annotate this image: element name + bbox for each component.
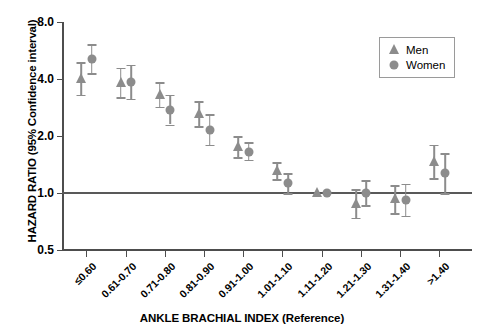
triangle-marker-icon: [155, 89, 165, 99]
y-tick-mark: [57, 79, 62, 80]
legend-label-women: Women: [406, 59, 445, 71]
hazard-ratio-chart: HAZARD RATIO (95% Confidence interval) A…: [0, 0, 484, 335]
ci-cap: [87, 44, 96, 46]
ci-cap: [283, 193, 292, 195]
x-tick-label: 0.61-0.70: [98, 260, 138, 300]
ci-cap: [440, 153, 449, 155]
ci-cap: [166, 95, 175, 97]
ci-cap: [116, 68, 125, 70]
triangle-marker-icon: [272, 165, 282, 175]
y-tick-label: 0.5: [37, 243, 54, 257]
x-tick-mark: [322, 251, 323, 257]
x-tick-mark: [439, 251, 440, 257]
ci-cap: [283, 173, 292, 175]
circle-marker-icon: [205, 126, 214, 135]
ci-cap: [155, 82, 164, 84]
triangle-marker-icon: [429, 156, 439, 166]
ci-cap: [430, 178, 439, 180]
x-tick-mark: [243, 251, 244, 257]
ci-cap: [244, 160, 253, 162]
ci-cap: [205, 114, 214, 116]
ci-cap: [155, 107, 164, 109]
circle-marker-icon: [283, 178, 292, 187]
ci-cap: [362, 205, 371, 207]
ci-cap: [127, 99, 136, 101]
chart-legend: Men Women: [379, 37, 455, 78]
legend-item-men: Men: [387, 42, 445, 57]
x-tick-label: 1.31-1.40: [373, 260, 413, 300]
triangle-marker-icon: [233, 141, 243, 151]
ci-cap: [234, 157, 243, 159]
ci-cap: [87, 73, 96, 75]
x-tick-mark: [165, 251, 166, 257]
x-tick-label: 0.81-0.90: [177, 260, 217, 300]
ci-cap: [77, 95, 86, 97]
y-tick-mark: [57, 250, 62, 251]
y-tick-mark: [57, 22, 62, 23]
ci-cap: [351, 189, 360, 191]
legend-label-men: Men: [406, 44, 428, 56]
x-tick-label: >1.40: [425, 260, 452, 287]
x-tick-mark: [282, 251, 283, 257]
circle-marker-icon: [323, 189, 332, 198]
ci-cap: [195, 126, 204, 128]
ci-cap: [440, 193, 449, 195]
ci-cap: [362, 180, 371, 182]
triangle-marker-icon: [116, 77, 126, 87]
ci-cap: [116, 97, 125, 99]
ci-cap: [391, 213, 400, 215]
reference-line: [62, 192, 472, 194]
ci-cap: [127, 65, 136, 67]
triangle-marker-icon: [76, 73, 86, 83]
x-tick-mark: [86, 251, 87, 257]
x-tick-label: 0.91-1.00: [216, 260, 256, 300]
circle-marker-icon: [401, 195, 410, 204]
x-axis-line: [62, 249, 472, 251]
y-axis-title: HAZARD RATIO (95% Confidence interval): [26, 11, 38, 251]
circle-marker-icon: [362, 189, 371, 198]
y-tick-mark: [57, 136, 62, 137]
triangle-marker-icon: [312, 187, 322, 197]
ci-cap: [391, 185, 400, 187]
ci-cap: [351, 218, 360, 220]
x-tick-label: 1.11-1.20: [295, 260, 334, 299]
x-tick-label: 1.01-1.10: [255, 260, 295, 300]
y-tick-label: 2.0: [37, 129, 54, 143]
circle-marker-icon: [244, 147, 253, 156]
circle-marker-icon: [127, 78, 136, 87]
y-tick-label: 1.0: [37, 186, 54, 200]
ci-cap: [195, 101, 204, 103]
ci-cap: [234, 136, 243, 138]
triangle-marker-icon: [351, 198, 361, 208]
ci-cap: [273, 179, 282, 181]
x-tick-mark: [126, 251, 127, 257]
ci-cap: [430, 145, 439, 147]
y-axis-line: [62, 22, 64, 250]
x-tick-mark: [204, 251, 205, 257]
x-tick-mark: [361, 251, 362, 257]
x-tick-label: ≤0.60: [72, 260, 99, 287]
ci-cap: [244, 142, 253, 144]
ci-cap: [273, 162, 282, 164]
circle-marker-icon: [387, 58, 401, 72]
circle-marker-icon: [440, 168, 449, 177]
ci-cap: [77, 62, 86, 64]
legend-item-women: Women: [387, 57, 445, 72]
triangle-marker-icon: [390, 193, 400, 203]
ci-cap: [166, 125, 175, 127]
ci-cap: [205, 145, 214, 147]
circle-marker-icon: [87, 55, 96, 64]
x-axis-title: ANKLE BRACHIAL INDEX (Reference): [0, 312, 484, 324]
y-tick-mark: [57, 193, 62, 194]
x-tick-label: 1.21-1.30: [334, 260, 374, 300]
ci-cap: [401, 184, 410, 186]
y-tick-label: 4.0: [37, 72, 54, 86]
y-tick-label: 8.0: [37, 15, 54, 29]
triangle-marker-icon: [194, 108, 204, 118]
circle-marker-icon: [166, 105, 175, 114]
x-tick-mark: [400, 251, 401, 257]
triangle-marker-icon: [387, 43, 401, 57]
ci-cap: [401, 216, 410, 218]
x-tick-label: 0.71-0.80: [137, 260, 177, 300]
